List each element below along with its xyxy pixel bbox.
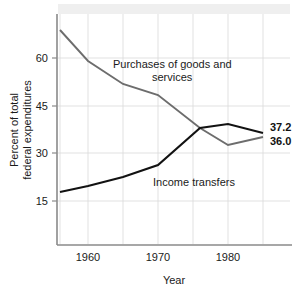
xtick-label-1980: 1980 — [216, 251, 240, 263]
y-axis-title-line1: Percent of total — [8, 93, 20, 167]
series-line-purchases-of-goods-and-services — [60, 30, 263, 145]
series-label-purchases-line1: Purchases of goods and — [113, 58, 232, 70]
vertical-gridlines — [60, 14, 263, 244]
ytick-label-30: 30 — [36, 147, 48, 159]
series-label-income-transfers: Income transfers — [153, 176, 235, 188]
xtick-label-1970: 1970 — [146, 251, 170, 263]
chart-figure: 60 45 30 15 1960 1970 1980 Year Percent … — [0, 0, 304, 293]
end-value-label-income-transfers: 37.2 — [270, 121, 291, 133]
series-label-purchases-line2: services — [152, 71, 193, 83]
x-axis-title: Year — [163, 274, 186, 286]
y-axis-title-line2: federal expenditures — [21, 80, 33, 180]
end-value-label-purchases: 36.0 — [270, 135, 291, 147]
ytick-label-15: 15 — [36, 195, 48, 207]
line-chart-canvas: 60 45 30 15 1960 1970 1980 Year Percent … — [0, 0, 304, 293]
ytick-label-45: 45 — [36, 100, 48, 112]
ytick-label-60: 60 — [36, 52, 48, 64]
xtick-label-1960: 1960 — [76, 251, 100, 263]
